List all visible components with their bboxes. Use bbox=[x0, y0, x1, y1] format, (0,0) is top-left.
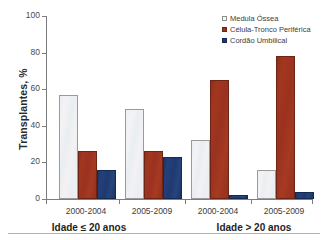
chart-figure: Transplantes, % 100 80 60 40 20 0 bbox=[0, 0, 328, 240]
legend-swatch-cordao-umbilical-icon bbox=[222, 38, 227, 43]
y-tick-label-40: 40 bbox=[31, 120, 40, 130]
x-label-group2-2005-2009: 2005-2009 bbox=[249, 206, 319, 216]
chart-legend: Medula Óssea Célula-Tronco Periférica Co… bbox=[222, 13, 328, 46]
legend-label-celula-tronco-periferica: Célula-Tronco Periférica bbox=[230, 25, 311, 34]
x-tick-1 bbox=[119, 199, 120, 204]
x-tick-0 bbox=[46, 199, 47, 204]
bar-celula-tronco-g1 bbox=[78, 151, 97, 199]
bar-cordao-umbilical-g4 bbox=[295, 192, 314, 199]
bar-celula-tronco-g4 bbox=[276, 56, 295, 199]
bar-cordao-umbilical-g1 bbox=[97, 170, 116, 199]
x-label-group1-2005-2009: 2005-2009 bbox=[117, 206, 187, 216]
bar-celula-tronco-g2 bbox=[144, 151, 163, 199]
legend-swatch-medula-ossea-icon bbox=[222, 16, 227, 21]
y-axis-title: Transplantes, % bbox=[17, 39, 29, 179]
y-tick-label-80: 80 bbox=[31, 47, 40, 57]
legend-item-celula-tronco-periferica: Célula-Tronco Periférica bbox=[222, 24, 328, 34]
bar-medula-ossea-g4 bbox=[257, 170, 276, 199]
y-tick-label-0: 0 bbox=[35, 193, 40, 203]
y-tick-label-20: 20 bbox=[31, 156, 40, 166]
legend-swatch-celula-tronco-periferica-icon bbox=[222, 27, 227, 32]
bar-cordao-umbilical-g3 bbox=[229, 195, 248, 199]
x-label-group1-2000-2004: 2000-2004 bbox=[51, 206, 121, 216]
legend-label-medula-ossea: Medula Óssea bbox=[230, 14, 278, 23]
x-group-label-idade-maior-20: Idade > 20 anos bbox=[179, 222, 328, 233]
bar-medula-ossea-g3 bbox=[191, 140, 210, 199]
bar-medula-ossea-g2 bbox=[125, 109, 144, 199]
x-axis-line bbox=[46, 199, 313, 200]
x-label-group2-2000-2004: 2000-2004 bbox=[183, 206, 253, 216]
x-tick-3 bbox=[251, 199, 252, 204]
x-group-label-idade-menor-igual-20: Idade ≤ 20 anos bbox=[14, 222, 164, 233]
legend-label-cordao-umbilical: Cordão Umbilical bbox=[230, 36, 287, 45]
bar-celula-tronco-g3 bbox=[210, 80, 229, 199]
legend-item-medula-ossea: Medula Óssea bbox=[222, 13, 328, 23]
bar-cordao-umbilical-g2 bbox=[163, 157, 182, 199]
x-tick-4 bbox=[312, 199, 313, 204]
y-tick-label-100: 100 bbox=[26, 10, 40, 20]
x-tick-2 bbox=[185, 199, 186, 204]
y-tick-label-60: 60 bbox=[31, 83, 40, 93]
footer-divider bbox=[8, 233, 320, 234]
legend-item-cordao-umbilical: Cordão Umbilical bbox=[222, 35, 328, 45]
bar-medula-ossea-g1 bbox=[59, 95, 78, 199]
